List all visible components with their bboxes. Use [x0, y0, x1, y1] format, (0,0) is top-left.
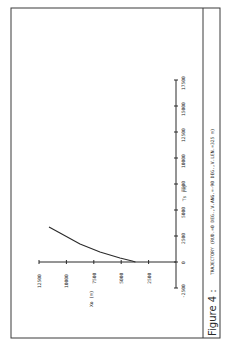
ts-tick-label: 17500 [181, 76, 186, 90]
xo-tick-label: 7500 [92, 273, 97, 284]
ts-tick-label: 0 [181, 261, 186, 264]
ts-tick-label: 2500 [181, 233, 186, 244]
figure-page: -250002500500075001000012500150001750025… [0, 0, 228, 346]
ts-tick-label: 12500 [181, 128, 186, 142]
ts-tick-label: -2500 [181, 284, 186, 298]
figure-caption: TRAJECTORY (RUD.=0 DEG.,V.ANG.=-90 DEG.,… [210, 128, 215, 275]
xo-tick-label: 10000 [64, 274, 69, 288]
xo-tick-label: 5000 [119, 273, 124, 284]
xo-axis-label: Xo (m) [89, 290, 94, 307]
xo-tick-label: 12500 [37, 274, 42, 288]
xo-tick-label: 2500 [147, 273, 152, 284]
ts-tick-label: 10000 [181, 154, 186, 168]
figure-label: Figure 4 : [207, 289, 218, 336]
trajectory-curve [49, 227, 135, 262]
ts-tick-label: 5000 [181, 207, 186, 218]
caption-column: Figure 4 : TRAJECTORY (RUD.=0 DEG.,V.ANG… [207, 128, 218, 336]
figure-frame [11, 8, 220, 338]
figure-canvas: -250002500500075001000012500150001750025… [0, 0, 228, 346]
ts-axis-label: Ts (m) [182, 185, 187, 202]
ts-tick-label: 15000 [181, 102, 186, 116]
plot-area: -250002500500075001000012500150001750025… [37, 76, 187, 307]
